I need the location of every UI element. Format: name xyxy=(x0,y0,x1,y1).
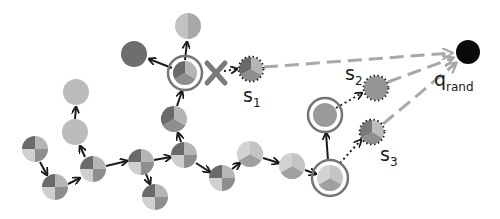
label-s2: s2 xyxy=(345,64,363,87)
node-top xyxy=(175,13,201,39)
label-q-rand: qrand xyxy=(434,70,474,93)
node-e xyxy=(161,106,187,132)
label-s3: s3 xyxy=(380,145,398,168)
node-s2 xyxy=(364,76,389,101)
node-start xyxy=(22,136,48,162)
node-i xyxy=(312,160,348,196)
node-d xyxy=(171,142,197,168)
node-c-down xyxy=(142,184,168,210)
node-dark xyxy=(121,41,147,67)
node-q-rand xyxy=(456,40,480,64)
node-s1 xyxy=(239,57,264,82)
node-b xyxy=(80,156,106,182)
node-left-top xyxy=(63,79,89,105)
node-a xyxy=(42,174,68,200)
quad-nodes xyxy=(22,136,235,210)
light-thirds-nodes xyxy=(237,141,348,196)
node-left-mid xyxy=(62,119,88,145)
node-j xyxy=(308,98,342,132)
rrt-diagram xyxy=(0,0,500,219)
node-hub xyxy=(168,56,202,90)
node-f xyxy=(209,165,235,191)
node-c xyxy=(128,149,154,175)
node-h xyxy=(279,153,305,179)
node-g xyxy=(237,141,263,167)
label-s1: s1 xyxy=(243,86,261,109)
x-mark-s1 xyxy=(207,63,225,83)
node-s3 xyxy=(360,120,385,145)
